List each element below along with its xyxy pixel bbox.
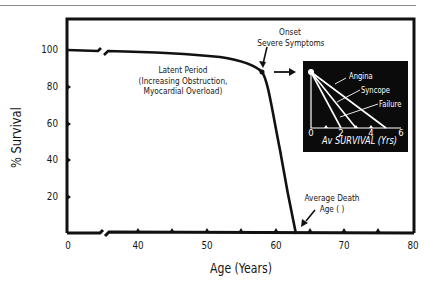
latent-period-annotation: Latent Period (Increasing Obstruction, M…: [138, 65, 228, 97]
y-tick-20: 20: [34, 190, 58, 203]
inset-tick-0: 0: [305, 128, 317, 138]
y-tick-100: 100: [34, 43, 58, 56]
inset-arrow: [289, 68, 296, 76]
inset-label-syncope: Syncope: [361, 85, 390, 95]
onset-arrow: [259, 61, 266, 68]
y-tick-40: 40: [34, 153, 58, 166]
x-tick-80: 80: [401, 239, 425, 252]
x-axis-right: [105, 232, 414, 236]
x-tick-0: 0: [56, 239, 80, 252]
y-tick-80: 80: [34, 80, 58, 93]
inset-label-failure: Failure: [379, 99, 401, 109]
inset-x-axis-label: Av SURVIVAL (Yrs): [322, 135, 397, 146]
x-axis-left: [67, 230, 103, 233]
onset-point: [260, 70, 265, 75]
x-tick-50: 50: [195, 239, 219, 252]
x-axis-label: Age (Years): [210, 260, 272, 276]
inset-label-angina: Angina: [349, 71, 373, 81]
y-axis-label: % Survival: [8, 107, 24, 168]
average-death-annotation: Average Death Age ( ): [303, 193, 360, 214]
onset-annotation: Onset Severe Symptoms: [257, 27, 323, 48]
x-tick-70: 70: [332, 239, 356, 252]
survival-curve-early: [67, 48, 101, 51]
y-tick-60: 60: [34, 117, 58, 130]
x-tick-60: 60: [264, 239, 288, 252]
x-tick-40: 40: [126, 239, 150, 252]
